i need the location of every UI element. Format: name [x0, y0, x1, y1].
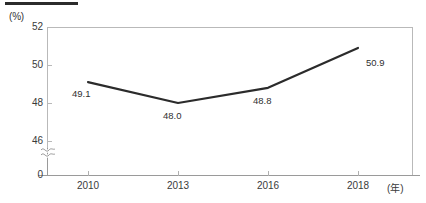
data-label-2010: 49.1 — [72, 88, 91, 99]
series-line — [0, 0, 426, 203]
data-label-2016: 48.8 — [253, 95, 272, 106]
data-label-2013: 48.0 — [163, 110, 182, 121]
chart-figure: (%) 52 50 48 46 0 2010 2013 2016 2018 (年… — [0, 0, 426, 203]
data-label-2018: 50.9 — [366, 57, 385, 68]
